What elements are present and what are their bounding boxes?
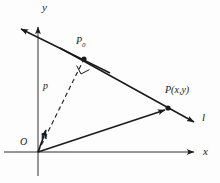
geometry-figure: y x O P0 P(x,y) l p n <box>0 0 220 183</box>
normal-vector-label: n <box>41 131 47 141</box>
line-l-label: l <box>202 112 205 123</box>
point-p0-label: P0 <box>76 36 86 49</box>
distance-p-label: p <box>43 81 48 91</box>
point-p-dot <box>165 105 170 110</box>
point-p0-subscript: 0 <box>82 41 86 49</box>
origin-label: O <box>20 137 27 147</box>
y-axis-label: y <box>42 2 47 13</box>
x-axis-label: x <box>203 146 208 157</box>
point-p0-dot <box>81 56 86 61</box>
vector-op <box>38 110 165 152</box>
point-p-label: P(x,y) <box>165 85 189 95</box>
right-angle-marker <box>77 66 90 74</box>
